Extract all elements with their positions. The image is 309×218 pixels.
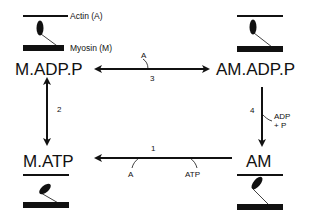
a-release-hook	[132, 158, 139, 168]
myosin-filament	[237, 204, 283, 210]
myosin-neck	[253, 189, 270, 206]
icon-m-adp-p	[23, 16, 68, 51]
t1-in-atp: ATP	[185, 170, 200, 179]
state-m-adp-p: M.ADP.P	[15, 60, 83, 79]
a-binding-hook	[143, 59, 148, 69]
t4-label: 4	[250, 106, 255, 115]
icon-m-atp	[23, 175, 69, 208]
t3-label: 3	[150, 74, 155, 83]
myosin-head	[250, 20, 257, 35]
t2-label: 2	[57, 105, 62, 114]
actin-legend-label: Actin (A)	[70, 11, 103, 21]
t4-out-p: + P	[274, 121, 286, 130]
state-am-adp-p: AM.ADP.P	[216, 60, 295, 79]
myosin-legend-label: Myosin (M)	[70, 43, 112, 53]
myosin-filament	[23, 45, 64, 51]
t4-out-adp: ADP	[274, 112, 290, 121]
myosin-filament	[237, 46, 283, 52]
adp-release-hook	[262, 114, 272, 121]
t1-out-a: A	[128, 170, 134, 179]
t3-input-a: A	[141, 51, 147, 60]
myosin-neck	[254, 33, 272, 47]
atp-binding-hook	[190, 158, 197, 168]
icon-am	[237, 175, 283, 210]
transition-2: 2	[47, 83, 62, 144]
transition-1: 1 A ATP	[96, 144, 232, 179]
state-m-atp: M.ATP	[23, 152, 74, 171]
myosin-head	[249, 175, 264, 191]
myosin-head	[37, 21, 44, 36]
transition-4: 4 ADP + P	[250, 87, 290, 145]
icon-am-adp-p	[237, 16, 283, 52]
state-am: AM	[246, 152, 272, 171]
crossbridge-cycle-diagram: Actin (A) Myosin (M) M.ADP.P AM.ADP.P AM…	[0, 0, 309, 218]
t1-label: 1	[151, 144, 156, 153]
myosin-filament	[23, 202, 69, 208]
myosin-head	[37, 182, 52, 196]
transition-3: A 3	[100, 51, 208, 83]
